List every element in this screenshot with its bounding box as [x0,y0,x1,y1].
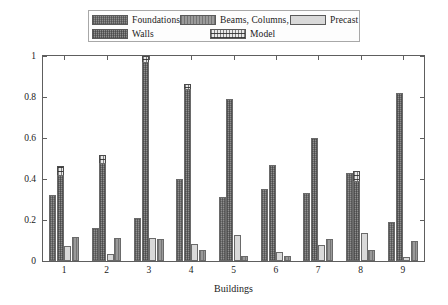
bar-beams-columns-slabs [284,256,291,261]
x-axis-tick-top [318,56,319,60]
y-axis-tick-right [420,220,424,221]
bar-beams-columns-slabs [199,250,206,261]
bar-walls [142,62,149,261]
x-axis-tick-label: 4 [189,265,194,275]
y-axis-tick [43,220,47,221]
x-axis-tick-top [107,56,108,60]
y-axis-tick [43,138,47,139]
bar-beams-columns-slabs [241,256,248,261]
legend-row-top: Foundations Beams, Columns, Slabs Precas… [92,13,356,26]
y-axis-tick-right [420,138,424,139]
x-axis-tick-top [403,56,404,60]
legend-swatch-precast [290,15,326,25]
legend-label-foundations: Foundations [132,15,180,25]
bar-beams-columns-slabs [326,239,333,261]
y-axis-tick-right [420,179,424,180]
y-axis-tick-label: 0.4 [24,175,36,184]
y-axis-tick-label: 0.8 [24,93,36,102]
x-axis-title: Buildings [42,283,425,295]
x-axis-tick-label: 6 [273,265,278,275]
legend-entry-precast: Precast [290,13,358,26]
x-axis-tick-label: 8 [358,265,363,275]
bar-walls [396,93,403,261]
x-axis-tick-label: 9 [400,265,405,275]
y-axis-tick-label: 0 [31,257,36,266]
x-axis-tick-top [361,56,362,60]
bar-foundations [134,218,141,261]
legend-label-walls: Walls [132,29,154,39]
bar-walls [353,181,360,261]
x-axis-tick-top [276,56,277,60]
bar-foundations [49,195,56,261]
legend-swatch-foundations [92,15,128,25]
bar-precast [276,252,283,261]
bar-foundations [92,228,99,261]
x-axis-tick-label: 2 [104,265,109,275]
x-axis-tick-label: 5 [231,265,236,275]
bar-precast [234,235,241,261]
bar-precast [191,244,198,261]
bar-foundations [388,222,395,261]
legend-entry-foundations: Foundations [92,13,180,26]
bar-walls [184,89,191,261]
legend-row-bottom: Walls Model [92,27,356,40]
legend-swatch-beams-columns-slabs [180,15,216,25]
chart-plot-area: 00.20.40.60.81123456789 [42,55,425,262]
y-axis-tick [43,261,47,262]
bar-foundations [219,197,226,261]
legend-entry-model: Model [210,27,275,40]
x-axis-tick-top [64,56,65,60]
y-axis-tick-label: 0.2 [24,216,36,225]
bar-beams-columns-slabs [368,250,375,261]
x-axis-tick-top [191,56,192,60]
bar-precast [64,246,71,261]
x-axis-tick-label: 1 [62,265,67,275]
x-axis-tick-top [234,56,235,60]
bar-precast [403,257,410,261]
y-axis-tick-label: 1 [31,52,36,61]
bar-beams-columns-slabs [411,241,418,262]
bar-walls [226,99,233,261]
bar-walls [269,165,276,261]
y-axis-tick [43,97,47,98]
legend-swatch-walls [92,29,128,39]
legend-swatch-model [210,29,246,39]
legend-entry-walls: Walls [92,27,210,40]
y-axis-tick [43,179,47,180]
bar-beams-columns-slabs [114,238,121,261]
legend-label-model: Model [250,29,275,39]
x-axis-tick-label: 3 [146,265,151,275]
bar-foundations [261,189,268,261]
bar-precast [149,238,156,261]
bar-precast [318,245,325,261]
bar-foundations [303,193,310,261]
chart-legend: Foundations Beams, Columns, Slabs Precas… [88,10,360,42]
bar-walls [311,138,318,261]
bar-walls [99,163,106,261]
legend-entry-beams-columns-slabs: Beams, Columns, Slabs [180,13,290,26]
y-axis-tick-right [420,97,424,98]
bar-precast [361,233,368,261]
bar-foundations [346,173,353,261]
y-axis-tick-right [420,261,424,262]
x-axis-tick-label: 7 [316,265,321,275]
y-axis-tick-label: 0.6 [24,134,36,143]
bar-precast [107,254,114,261]
y-axis-tick [43,56,47,57]
bar-foundations [176,179,183,261]
y-axis-tick-right [420,56,424,57]
bar-beams-columns-slabs [72,237,79,261]
x-axis-tick-top [149,56,150,60]
legend-label-precast: Precast [330,15,358,25]
chart-plot-inner: 00.20.40.60.81123456789 [43,56,424,261]
bar-beams-columns-slabs [157,239,164,261]
bar-walls [57,175,64,261]
